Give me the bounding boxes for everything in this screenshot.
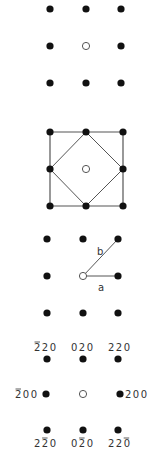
filled-spot (43, 355, 50, 362)
vector-label-a: a (98, 282, 106, 293)
filled-spot (82, 128, 89, 135)
filled-spot (79, 355, 86, 362)
miller-index-label: 020 (71, 342, 95, 353)
miller-index-label: 220 (34, 342, 58, 353)
filled-spot (43, 309, 50, 316)
filled-spot (42, 390, 49, 397)
filled-spot (46, 5, 53, 12)
filled-spot (46, 128, 53, 135)
filled-spot (114, 235, 121, 242)
filled-spot (43, 235, 50, 242)
filled-spot (116, 390, 123, 397)
filled-spot (46, 165, 53, 172)
filled-spot (79, 309, 86, 316)
filled-spot (117, 79, 124, 86)
filled-spot (82, 202, 89, 209)
filled-spot (46, 79, 53, 86)
filled-spot (114, 426, 121, 433)
lattice-diagram: ab220020220200200220020220 (0, 0, 160, 463)
filled-spot (119, 202, 126, 209)
filled-spot (43, 272, 50, 279)
origin-spot (82, 42, 89, 49)
filled-spot (119, 165, 126, 172)
diffraction-spots (42, 5, 126, 433)
miller-index-label: 220 (108, 342, 132, 353)
miller-index-label: 220 (108, 438, 132, 449)
filled-spot (46, 202, 53, 209)
miller-index-label: 020 (71, 438, 95, 449)
filled-spot (82, 5, 89, 12)
origin-spot (79, 272, 86, 279)
miller-index-label: 200 (125, 389, 149, 400)
filled-spot (79, 426, 86, 433)
filled-spot (114, 309, 121, 316)
filled-spot (119, 128, 126, 135)
origin-spot (79, 390, 86, 397)
filled-spot (114, 272, 121, 279)
origin-spot (82, 165, 89, 172)
filled-spot (79, 235, 86, 242)
filled-spot (114, 355, 121, 362)
vector-b (83, 239, 118, 276)
miller-index-label: 200 (15, 389, 39, 400)
filled-spot (46, 42, 53, 49)
miller-index-label: 220 (34, 438, 58, 449)
vector-label-b: b (97, 246, 105, 257)
filled-spot (117, 5, 124, 12)
filled-spot (82, 79, 89, 86)
filled-spot (43, 426, 50, 433)
filled-spot (117, 42, 124, 49)
